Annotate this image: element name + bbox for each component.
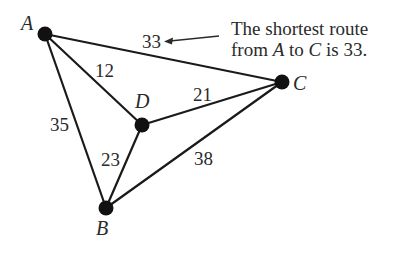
annotation-to-node: C [309, 39, 322, 60]
node-c [275, 75, 290, 90]
node-a [38, 27, 53, 42]
annotation-from-node: A [271, 39, 285, 60]
annotation-line2-prefix: from [231, 39, 273, 60]
weighted-graph-diagram: A B C D 33 12 35 21 23 38 The shortest r… [0, 0, 399, 254]
node-label-d: D [134, 90, 150, 112]
weight-a-d: 12 [95, 60, 114, 81]
annotation-line2-mid: to [284, 39, 308, 60]
weight-d-b: 23 [101, 149, 120, 170]
weight-a-b: 35 [50, 114, 69, 135]
weight-b-c: 38 [194, 148, 213, 169]
node-b [99, 201, 114, 216]
weight-d-c: 21 [193, 84, 212, 105]
edge-a-d [45, 34, 142, 125]
edge-d-c [142, 82, 282, 125]
node-label-a: A [19, 12, 34, 34]
annotation-line-1: The shortest route [231, 18, 368, 39]
node-d [135, 118, 150, 133]
annotation-line-2: from A to C is 33. [231, 39, 367, 60]
arrow-head-icon [164, 38, 173, 45]
weight-a-c: 33 [142, 31, 161, 52]
edges [45, 34, 282, 208]
node-label-b: B [96, 217, 108, 239]
annotation: The shortest route from A to C is 33. [231, 18, 368, 60]
node-label-c: C [293, 72, 307, 94]
arrow-shaft [170, 36, 219, 41]
annotation-line2-suffix: is 33. [321, 39, 367, 60]
annotation-arrow [164, 36, 219, 45]
